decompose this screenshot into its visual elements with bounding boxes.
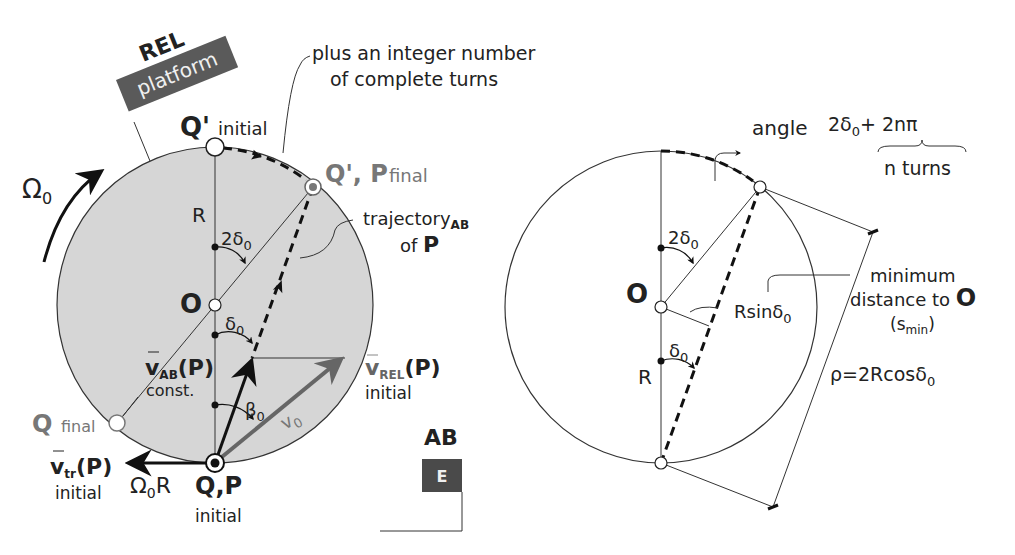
angle-label: angle [752,116,808,140]
v-tr-initial-label: initial [55,483,102,503]
turns-callout-line2: of complete turns [330,68,498,90]
v-rel-initial-label: initial [365,383,412,403]
min-distance-line1: minimum [870,265,955,286]
v-ab-const-label: const. [146,381,194,400]
s-min-label: (smin) [890,314,935,337]
omega-label: Ω0 [22,174,52,208]
n-turns-label: n turns [884,157,951,179]
radius-label: R [192,203,206,227]
angle-expression: 2δ0+ 2nπ [828,113,918,139]
v-rel-label: vREL(P) [365,355,441,382]
omega-r-label: Ω0R [130,473,171,501]
rho-label: ρ=2Rcosδ0 [830,363,935,389]
right-radius-label: R [638,365,652,389]
svg-text:E: E [437,467,448,486]
q-prime-initial-sub: initial [218,118,268,139]
n-turns-brace [878,140,966,152]
turns-callout-leader [283,56,310,153]
qp-initial-sub: initial [195,506,242,526]
left-diagram: platform REL [22,26,535,531]
q-prime-initial-label: Q' [180,112,210,142]
min-distance-line2: distance to O [850,284,976,312]
q-final-label: Q [32,410,52,438]
q-final-point [109,415,125,431]
flag-pole [134,122,150,161]
q-final-sub: final [61,417,95,436]
qp-initial-label: Q,P [195,472,242,500]
right-center-point [655,301,667,313]
right-diagram: angle 2δ0+ 2nπ n turns 2δ0 O Rsinδ0 mini… [505,113,976,509]
diagram-canvas: platform REL [0,0,1015,555]
q-prime-p-final-label: Q', P [325,160,388,188]
v-tr-label: vtr(P) [50,454,112,481]
right-initial-point [655,457,667,469]
ab-flag: E [380,459,462,531]
right-final-point [754,181,766,193]
trajectory-of-label: of P [400,232,439,257]
q-prime-p-final-sub: final [389,165,428,186]
ab-title: AB [424,425,458,450]
right-center-label: O [626,279,648,309]
turns-callout-line1: plus an integer number [312,42,535,64]
trajectory-label: trajectoryAB [363,208,469,232]
center-o-point [209,299,221,311]
center-o-label: O [180,289,202,319]
v-ab-label: vAB(P) [145,355,214,382]
